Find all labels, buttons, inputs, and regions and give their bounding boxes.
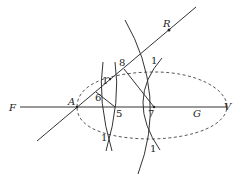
label-6: 6 bbox=[95, 92, 101, 103]
label-g: G bbox=[193, 108, 201, 119]
label-f: F bbox=[8, 102, 17, 113]
label-v: V bbox=[224, 101, 233, 112]
label-7: 7 bbox=[148, 108, 154, 119]
label-1-lower-left: 1 bbox=[101, 132, 107, 143]
label-1-lower-right: 1 bbox=[150, 143, 156, 154]
label-5: 5 bbox=[116, 108, 122, 119]
label-1-upper-right: 1 bbox=[151, 55, 157, 66]
label-1-upper-left: 1 bbox=[102, 75, 108, 86]
label-r: R bbox=[162, 18, 171, 29]
label-a: A bbox=[67, 96, 75, 107]
diagram-svg: F A R G V 1 1 1 1 5 6 7 8 bbox=[0, 0, 236, 181]
construction-diagram: F A R G V 1 1 1 1 5 6 7 8 bbox=[0, 0, 236, 181]
dashed-oval bbox=[77, 72, 227, 139]
label-8: 8 bbox=[119, 57, 125, 68]
point-a bbox=[76, 106, 78, 108]
line-8-7 bbox=[124, 69, 154, 107]
point-1-upper-left bbox=[109, 78, 111, 80]
